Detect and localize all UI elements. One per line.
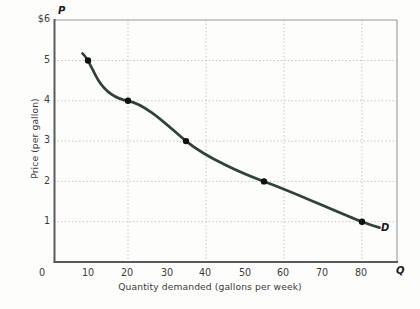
data-point: [85, 57, 91, 63]
x-tick-label-70: 70: [312, 267, 332, 278]
x-tick-label-20: 20: [117, 267, 137, 278]
data-point: [183, 138, 189, 144]
demand-curve-label: D: [381, 222, 389, 233]
gridlines: [54, 20, 397, 262]
data-point: [125, 98, 131, 104]
x-axis-title: Quantity demanded (gallons per week): [0, 281, 420, 292]
x-tick-label-80: 80: [351, 267, 371, 278]
x-tick-label-60: 60: [273, 267, 293, 278]
data-point: [359, 219, 365, 225]
chart-plot-area: [0, 0, 420, 309]
x-tick-label-40: 40: [195, 267, 215, 278]
x-tick-label-50: 50: [235, 267, 255, 278]
y-tick-label-6: $6: [18, 13, 50, 24]
demand-curve: [83, 54, 380, 228]
data-point: [261, 178, 267, 184]
quantity-axis-letter: Q: [396, 265, 405, 276]
y-axis-title: Price (per gallon): [29, 54, 40, 224]
price-axis-letter: P: [58, 5, 65, 16]
x-tick-label-30: 30: [157, 267, 177, 278]
x-tick-label-10: 10: [78, 267, 98, 278]
x-tick-label-0: 0: [32, 267, 52, 278]
demand-curve-figure: $6 5 4 3 2 1 0 10 20 30 40 50 60 70 80 P…: [0, 0, 420, 309]
